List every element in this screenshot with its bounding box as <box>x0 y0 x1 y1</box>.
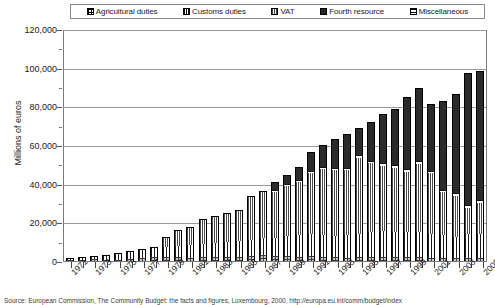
bar-segment-vat <box>319 169 327 235</box>
source-caption: Source: European Commission, The Communi… <box>4 297 495 305</box>
bar-segment-customs-duties <box>247 240 255 256</box>
bar-segment-agricultural-duties <box>66 260 74 261</box>
bar-1993 <box>331 139 339 261</box>
bar-segment-customs-duties <box>199 244 207 257</box>
bar-segment-customs-duties <box>367 232 375 257</box>
bar-segment-vat <box>379 166 387 231</box>
bar-1977 <box>138 249 146 261</box>
bar-segment-vat <box>199 220 207 243</box>
bar-segment-agricultural-duties <box>379 257 387 261</box>
bar-segment-customs-duties <box>391 232 399 257</box>
bar-segment-agricultural-duties <box>114 260 122 261</box>
bar-segment-vat <box>223 214 231 242</box>
bar-segment-fourth-resource <box>271 182 279 191</box>
y-axis-tick <box>57 223 62 224</box>
y-axis-tick <box>57 146 62 147</box>
bar-segment-fourth-resource <box>427 104 435 171</box>
bar-1987 <box>259 191 267 261</box>
bar-2004 <box>464 73 472 261</box>
y-axis-minor-tick <box>59 127 62 128</box>
x-axis-labels: 1971197319751977197919811983198519871989… <box>63 268 487 298</box>
bar-segment-vat <box>271 192 279 238</box>
bar-segment-agricultural-duties <box>211 257 219 261</box>
bar-1981 <box>186 227 194 261</box>
bar-segment-fourth-resource <box>439 101 447 190</box>
y-axis-tick <box>57 262 62 263</box>
bar-segment-vat <box>247 197 255 240</box>
legend-item-misc: Miscellaneous <box>410 8 468 16</box>
chart-legend: Agricultural dutiesCustoms dutiesVATFour… <box>70 4 485 19</box>
swatch-vertical-lines-icon <box>183 8 190 15</box>
y-axis-minor-tick <box>59 243 62 244</box>
bar-segment-customs-duties <box>319 235 327 257</box>
bar-segment-customs-duties <box>452 237 460 258</box>
bar-segment-customs-duties <box>307 234 315 256</box>
bar-1982 <box>199 219 207 261</box>
bar-segment-vat <box>452 196 460 237</box>
bar-1973 <box>90 256 98 261</box>
bar-segment-fourth-resource <box>464 73 472 206</box>
legend-item-vat: VAT <box>271 8 294 16</box>
bar-segment-customs-duties <box>223 242 231 257</box>
bar-segment-fourth-resource <box>403 97 411 170</box>
bar-1990 <box>295 167 303 261</box>
bar-segment-vat <box>367 163 375 232</box>
y-axis-minor-tick <box>59 88 62 89</box>
bar-segment-agricultural-duties <box>403 257 411 261</box>
bar-1994 <box>343 134 351 261</box>
bar-1991 <box>307 152 315 261</box>
bar-segment-vat <box>162 238 170 247</box>
bar-segment-agricultural-duties <box>452 258 460 261</box>
bar-1988 <box>271 182 279 261</box>
bar-segment-agricultural-duties <box>283 256 291 261</box>
bar-segment-fourth-resource <box>295 167 303 180</box>
bar-segment-customs-duties <box>295 235 303 257</box>
legend-item-customs: Customs duties <box>183 8 246 16</box>
bar-segment-vat <box>174 231 182 246</box>
bar-segment-agricultural-duties <box>355 257 363 261</box>
bar-segment-vat <box>295 182 303 235</box>
y-axis-tick-label: 20,000 <box>5 218 57 228</box>
bar-segment-vat <box>186 228 194 246</box>
bar-segment-fourth-resource <box>307 152 315 171</box>
bar-segment-customs-duties <box>283 236 291 256</box>
chart-figure: Agricultural dutiesCustoms dutiesVATFour… <box>0 0 495 305</box>
bar-segment-customs-duties <box>174 246 182 257</box>
bar-segment-customs-duties <box>211 243 219 257</box>
y-axis-minor-tick <box>59 49 62 50</box>
bar-segment-vat <box>343 170 351 235</box>
bar-segment-vat <box>283 186 291 237</box>
bar-1985 <box>235 210 243 261</box>
swatch-crosshatch-icon <box>87 8 94 15</box>
bar-segment-fourth-resource <box>343 134 351 168</box>
bar-segment-customs-duties <box>138 250 146 258</box>
bar-segment-agricultural-duties <box>162 257 170 261</box>
bar-1983 <box>211 216 219 261</box>
bar-1989 <box>283 175 291 261</box>
bar-2001 <box>427 104 435 262</box>
bar-segment-customs-duties <box>343 235 351 258</box>
bar-segment-vat <box>464 208 472 234</box>
bar-segment-vat <box>476 203 484 234</box>
bar-segment-vat <box>439 192 447 235</box>
bar-segment-customs-duties <box>162 247 170 257</box>
bar-segment-fourth-resource <box>415 88 423 161</box>
bar-1984 <box>223 213 231 261</box>
bar-segment-fourth-resource <box>452 94 460 193</box>
bar-segment-agricultural-duties <box>331 257 339 261</box>
y-axis-tick-label: 0 <box>5 257 57 267</box>
bar-segment-customs-duties <box>464 234 472 258</box>
y-axis-tick <box>57 69 62 70</box>
bar-segment-vat <box>259 192 267 238</box>
bar-segment-customs-duties <box>259 238 267 255</box>
y-axis-tick <box>57 185 62 186</box>
bar-segment-vat <box>355 158 363 234</box>
bar-segment-fourth-resource <box>355 128 363 155</box>
bar-segment-customs-duties <box>427 234 435 258</box>
bar-segment-vat <box>331 170 339 236</box>
y-axis-tick-label: 120,000 <box>5 25 57 35</box>
bar-series-group <box>64 31 486 261</box>
y-axis-minor-tick <box>59 165 62 166</box>
legend-label: VAT <box>280 8 294 16</box>
bar-segment-agricultural-duties <box>90 259 98 261</box>
